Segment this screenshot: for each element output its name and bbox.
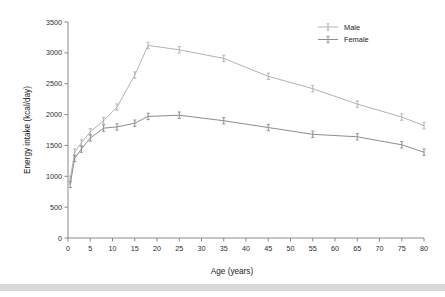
y-tick-label: 2000	[46, 110, 62, 119]
x-tick-label: 45	[264, 244, 272, 253]
x-tick-label: 60	[331, 244, 339, 253]
series-line	[70, 45, 424, 179]
x-axis-title: Age (years)	[211, 267, 254, 276]
x-tick-label: 20	[153, 244, 161, 253]
x-tick-label: 30	[198, 244, 206, 253]
y-tick-label: 3500	[46, 18, 62, 27]
x-tick-label: 10	[109, 244, 117, 253]
x-tick-label: 70	[376, 244, 384, 253]
chart-figure: 0500100015002000250030003500 05101520253…	[0, 0, 445, 297]
x-tick-label: 35	[220, 244, 228, 253]
data-series-group	[69, 42, 426, 187]
y-tick-label: 2500	[46, 79, 62, 88]
legend-item-male[interactable]: Male	[318, 23, 360, 32]
x-tick-label: 75	[398, 244, 406, 253]
series-male	[69, 42, 426, 182]
y-tick-label: 500	[50, 203, 62, 212]
x-tick-label: 80	[420, 244, 428, 253]
x-tick-label: 40	[242, 244, 250, 253]
y-tick-label: 0	[58, 234, 62, 243]
data-point-marker	[89, 129, 92, 135]
y-tick-label: 1500	[46, 141, 62, 150]
y-tick-label: 3000	[46, 48, 62, 57]
chart-legend: MaleFemale	[318, 23, 369, 45]
x-tick-label: 15	[131, 244, 139, 253]
legend-label: Male	[344, 23, 360, 32]
y-tick-label: 1000	[46, 172, 62, 181]
data-point-marker	[102, 118, 105, 124]
y-axis: 0500100015002000250030003500	[46, 18, 68, 243]
data-point-marker	[89, 135, 92, 141]
y-axis-title: Energy intake (kcal/day)	[23, 86, 32, 174]
x-tick-label: 65	[353, 244, 361, 253]
x-tick-label: 25	[175, 244, 183, 253]
legend-label: Female	[344, 35, 369, 44]
x-tick-label: 55	[309, 244, 317, 253]
legend-item-female[interactable]: Female	[318, 35, 369, 44]
x-axis: 05101520253035404550556065707580	[66, 238, 428, 253]
energy-intake-line-chart: 0500100015002000250030003500 05101520253…	[0, 0, 445, 297]
data-point-marker	[69, 181, 72, 187]
x-tick-label: 0	[66, 244, 70, 253]
series-female	[69, 112, 426, 188]
series-line	[70, 115, 424, 184]
x-tick-label: 50	[287, 244, 295, 253]
footer-band	[0, 284, 445, 291]
x-tick-label: 5	[88, 244, 92, 253]
